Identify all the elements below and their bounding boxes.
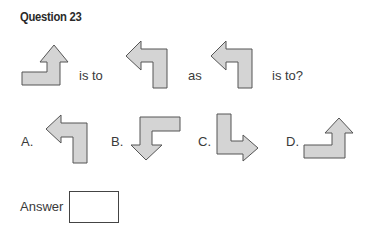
arrow-left-down-tail-icon — [126, 41, 167, 88]
answer-input[interactable] — [69, 191, 119, 223]
arrow-up-left-tail-icon — [22, 45, 68, 85]
stem-text-as: as — [188, 68, 202, 83]
answer-label: Answer — [20, 199, 63, 214]
option-c-label[interactable]: C. — [198, 134, 211, 149]
option-a-label[interactable]: A. — [21, 134, 33, 149]
arrow-left-down-tail-icon — [211, 41, 252, 88]
option-b-label[interactable]: B. — [111, 134, 123, 149]
option-d-label[interactable]: D. — [286, 134, 299, 149]
stem-text-is-to-question: is to? — [272, 68, 303, 83]
option-a-arrow-icon — [46, 115, 87, 163]
stem-text-is-to: is to — [79, 68, 103, 83]
option-d-arrow-icon — [304, 118, 353, 158]
option-b-arrow-icon — [131, 117, 180, 160]
option-c-arrow-icon — [217, 114, 258, 161]
